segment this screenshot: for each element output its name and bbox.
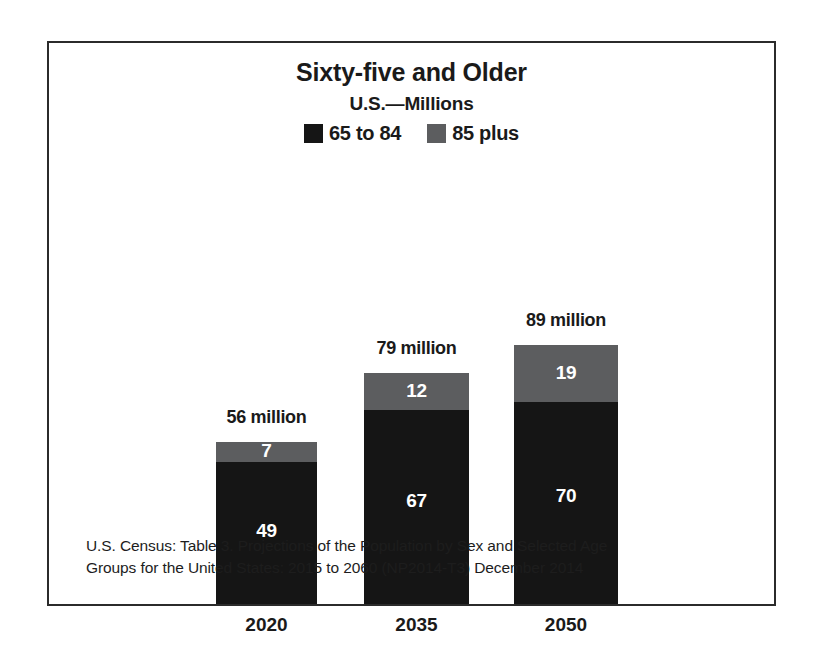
bar-category-label: 2050 — [514, 614, 618, 636]
bar-total-label: 79 million — [364, 338, 469, 359]
source-note-line-1: U.S. Census: Table 3. Projections of the… — [86, 535, 726, 557]
source-note: U.S. Census: Table 3. Projections of the… — [86, 535, 726, 580]
plot-area: 56 million 7 49 2020 79 million 12 67 — [49, 43, 774, 604]
bar-segment-85-plus[interactable]: 7 — [216, 442, 317, 462]
bar-total-label: 56 million — [216, 407, 317, 428]
bar-segment-85-plus[interactable]: 12 — [364, 373, 469, 410]
bar-segment-65-to-84[interactable]: 49 — [216, 462, 317, 604]
bar-segment-value: 70 — [514, 485, 618, 507]
bar-category-label: 2020 — [216, 614, 317, 636]
chart-frame: Sixty-five and Older U.S.—Millions 65 to… — [47, 41, 776, 606]
bar-segment-value: 7 — [216, 440, 317, 462]
source-note-line-2: Groups for the United States: 2015 to 20… — [86, 557, 726, 579]
bar-segment-value: 12 — [364, 379, 469, 401]
bar-segment-value: 19 — [514, 361, 618, 383]
bar-total-label: 89 million — [514, 310, 618, 331]
bar-segment-value: 67 — [364, 490, 469, 512]
bar-segment-85-plus[interactable]: 19 — [514, 345, 618, 402]
bar-category-label: 2035 — [364, 614, 469, 636]
